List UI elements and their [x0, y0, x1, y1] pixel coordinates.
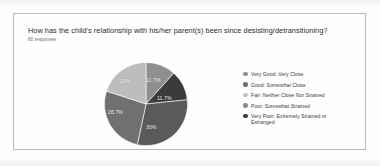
legend-item[interactable]: Fair: Neither Close Nor Strained [243, 92, 368, 98]
chart-card: How has the child's relationship with hi… [13, 13, 366, 150]
legend-item[interactable]: Very Good: Very Close [243, 71, 368, 77]
pie-chart-svg [104, 62, 188, 146]
legend-item-label: Poor: Somewhat Strained [251, 103, 310, 109]
legend-item-label-line2: Estranged [251, 119, 326, 125]
legend-color-dot-icon [243, 114, 248, 119]
screenshot-page: How has the child's relationship with hi… [0, 0, 380, 166]
legend-item[interactable]: Good: Somewhat Close [243, 82, 368, 88]
legend-color-dot-icon [243, 103, 248, 108]
legend-item-label: Very Poor: Extremely Strained orEstrange… [251, 113, 326, 126]
pie-chart: 11.7%11.7%30%26.7%20% [100, 61, 192, 146]
chart-legend: Very Good: Very CloseGood: Somewhat Clos… [243, 71, 368, 130]
page-title: How has the child's relationship with hi… [28, 26, 353, 35]
legend-item-label: Very Good: Very Close [251, 71, 303, 77]
response-count: 60 responses [28, 37, 56, 43]
legend-item[interactable]: Very Poor: Extremely Strained orEstrange… [243, 113, 368, 126]
legend-color-dot-icon [243, 72, 248, 77]
legend-item-label: Good: Somewhat Close [251, 82, 306, 88]
legend-item-label: Fair: Neither Close Nor Strained [251, 92, 325, 98]
legend-item[interactable]: Poor: Somewhat Strained [243, 103, 368, 109]
pie-slices [104, 62, 187, 145]
legend-color-dot-icon [243, 82, 248, 87]
legend-color-dot-icon [243, 93, 248, 98]
